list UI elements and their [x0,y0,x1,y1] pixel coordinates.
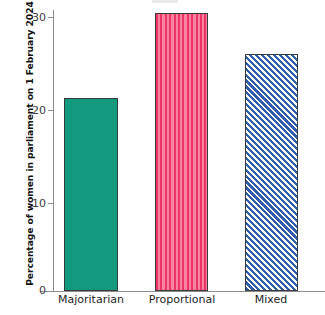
x-axis-label-majoritarian: Majoritarian [46,294,136,306]
plot-area [0,0,325,315]
bar-mixed[interactable] [245,54,298,291]
x-axis-label-proportional: Proportional [136,294,228,306]
bar-majoritarian[interactable] [64,98,118,291]
x-axis-label-mixed: Mixed [228,294,314,306]
bar-proportional[interactable] [155,13,208,291]
bar-chart: Percentage of women in parliament on 1 F… [0,0,325,315]
